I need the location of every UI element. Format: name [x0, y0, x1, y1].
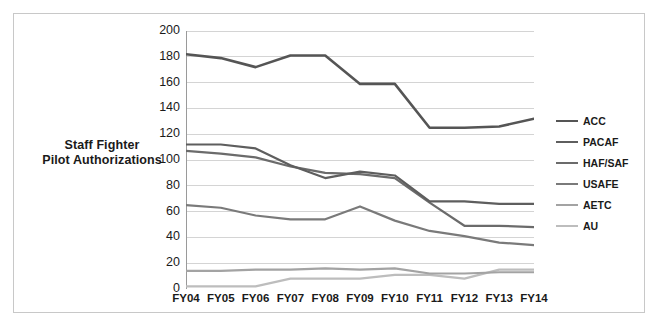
- x-axis-tick-label: FY14: [512, 292, 556, 304]
- legend-item-haf-saf[interactable]: HAF/SAF: [556, 152, 640, 173]
- legend-item-pacaf[interactable]: PACAF: [556, 131, 640, 152]
- legend-item-au[interactable]: AU: [556, 215, 640, 236]
- legend-swatch-acc: [556, 120, 578, 122]
- y-axis-tick-label: 80: [144, 178, 180, 192]
- legend: ACCPACAFHAF/SAFUSAFEAETCAU: [556, 110, 640, 236]
- y-axis-tick-label: 160: [144, 75, 180, 89]
- legend-item-aetc[interactable]: AETC: [556, 194, 640, 215]
- figure: Staff Fighter Pilot Authorizations 02040…: [0, 0, 653, 332]
- y-axis-tick-label: 20: [144, 255, 180, 269]
- series-line-aetc: [186, 268, 534, 273]
- y-axis-tick-label: 40: [144, 229, 180, 243]
- legend-label-au: AU: [583, 220, 598, 232]
- y-axis-tick-label: 140: [144, 100, 180, 114]
- y-axis-tick-label: 200: [144, 23, 180, 37]
- legend-label-pacaf: PACAF: [583, 136, 618, 148]
- legend-item-usafe[interactable]: USAFE: [556, 173, 640, 194]
- plot-area: [186, 31, 534, 289]
- legend-swatch-au: [556, 225, 578, 227]
- x-axis-tick-labels: FY04FY05FY06FY07FY08FY09FY10FY11FY12FY13…: [186, 292, 534, 312]
- line-chart-svg: [186, 31, 534, 289]
- series-line-acc: [186, 54, 534, 128]
- legend-item-acc[interactable]: ACC: [556, 110, 640, 131]
- legend-label-usafe: USAFE: [583, 178, 619, 190]
- legend-swatch-haf-saf: [556, 162, 578, 164]
- y-axis-tick-labels: 020406080100120140160180200: [140, 31, 180, 289]
- series-line-haf-saf: [186, 151, 534, 227]
- y-axis-tick-label: 180: [144, 49, 180, 63]
- y-axis-tick-label: 60: [144, 204, 180, 218]
- legend-swatch-usafe: [556, 183, 578, 185]
- y-axis-tick-label: 100: [144, 152, 180, 166]
- y-axis-tick-label: 120: [144, 126, 180, 140]
- legend-label-acc: ACC: [583, 115, 606, 127]
- legend-swatch-aetc: [556, 204, 578, 206]
- legend-label-aetc: AETC: [583, 199, 612, 211]
- legend-swatch-pacaf: [556, 141, 578, 143]
- legend-label-haf-saf: HAF/SAF: [583, 157, 629, 169]
